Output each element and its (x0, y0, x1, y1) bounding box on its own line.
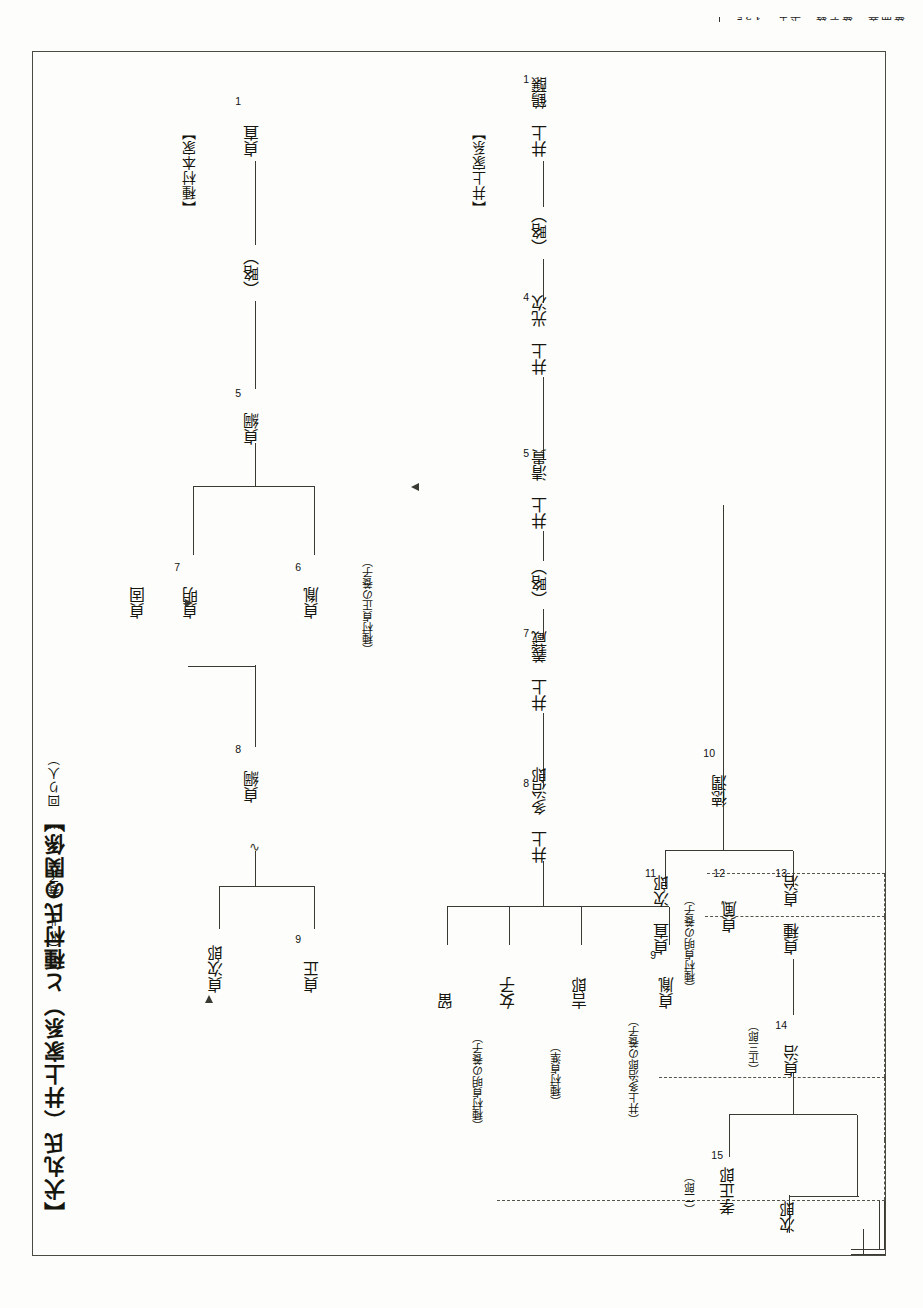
dashed-route-top-right-riser (884, 1078, 885, 1140)
dashed-route-mid-right (884, 874, 885, 916)
line-bar-child-b (509, 907, 510, 945)
person-inoue-ryaku-2: （略） (533, 559, 549, 607)
person-inoue-4: 井上 光次 (533, 295, 549, 375)
line-13-14 (793, 959, 794, 1015)
line-bar-to-sadaakira (193, 487, 194, 555)
line-takemura-8-up (255, 851, 256, 887)
person-inoue-7: 井上 義蔵 (533, 631, 549, 711)
line-bar-child-c (581, 907, 582, 945)
person-inoue-11: 貞直 次郎 (655, 875, 671, 955)
person-inoue-12: 貞風 (723, 901, 739, 933)
seq-takemura-9: 9 (295, 933, 301, 945)
seq-takemura-8: 8 (235, 743, 241, 755)
line-bar-to-jiro-note (729, 1115, 730, 1157)
line-bar-to-sadaji (219, 887, 220, 929)
line-inoue-10-bar (723, 805, 724, 851)
person-inoue-9b: 吉郎 (573, 977, 589, 1009)
group-label-takemura: 【種村本家】 (183, 125, 197, 215)
line-16-up (863, 1229, 864, 1255)
seq-takemura-1: 1 (235, 95, 241, 107)
seq-inoue-5: 5 (523, 447, 529, 459)
person-takemura-ryaku-1: （略） (245, 249, 261, 297)
annotation-jiro: （二郎） (685, 1171, 696, 1215)
person-inoue-13: 貞種 貞治 (785, 875, 801, 955)
seq-inoue-12: 12 (713, 867, 725, 879)
person-takemura-1: 貞直 (245, 125, 261, 157)
person-takemura-9: 貞正 (305, 961, 321, 993)
person-takemura-9b: 貞次郎 (209, 945, 225, 993)
dashed-route-low-arrow-icon (411, 483, 419, 491)
bar-15-16 (729, 1114, 857, 1115)
bar-takemura-5-children (193, 486, 315, 487)
seq-inoue-7: 7 (523, 627, 529, 639)
line-inoue-9-to-10 (723, 505, 724, 811)
annotation-takemura-sadaakira-yoshi-2: （種村貞明の養子） (685, 894, 696, 993)
line-inoue-8-bar (543, 861, 544, 907)
person-inoue-9c: 女子 (501, 977, 517, 1009)
person-takemura-7b: 貞固 (131, 587, 147, 619)
group-label-inoue: 【井上家系】 (473, 125, 487, 215)
line-bar-to-sadatane (314, 487, 315, 555)
seq-inoue-13: 13 (775, 867, 787, 879)
line-14-bar (793, 1073, 794, 1115)
dashed-route-mid-arrow-icon (185, 599, 193, 607)
person-inoue-1: 井上 鶴醸 (533, 77, 549, 157)
bar-inoue-10-children (665, 850, 793, 851)
line-bar-to-sadamasa (314, 887, 315, 929)
line-inoue-4-5 (543, 377, 544, 459)
line-bar-to-16 (857, 1115, 858, 1197)
bar-takemura-8-children (188, 666, 256, 667)
person-inoue-9d: 留 (439, 993, 455, 1009)
line-inoue-5-ryaku2 (543, 531, 544, 561)
bar-inoue-8-children (447, 906, 669, 907)
line-takemura-8-down (255, 665, 256, 747)
line-ryaku-takemura-5 (255, 301, 256, 389)
seq-inoue-8: 8 (523, 777, 529, 789)
line-inoue-1-ryaku (543, 161, 544, 207)
annotation-shozaburo: （正三郎） (749, 1020, 760, 1075)
adoption-link-sadaakira-up (879, 1201, 885, 1249)
seq-inoue-11: 11 (645, 867, 656, 879)
annotation-inoue-tajiro-yoshi: （井上多治郎の養子） (629, 1015, 640, 1125)
person-inoue-10: 徳潤 (713, 775, 729, 807)
person-takemura-6: 貞胤 (305, 587, 321, 619)
seq-takemura-5: 5 (235, 387, 241, 399)
dashed-route-low (707, 873, 885, 874)
person-inoue-ryaku-1: （略） (533, 207, 549, 255)
seq-inoue-10: 10 (703, 747, 715, 759)
seq-takemura-7: 7 (174, 561, 180, 573)
seq-takemura-6: 6 (295, 561, 301, 573)
person-inoue-15: 次郎 (781, 1201, 797, 1233)
person-inoue-5: 井上 清貴 (533, 449, 549, 529)
bar-takemura-9 (219, 886, 315, 887)
dashed-route-mid-riser (884, 917, 885, 1077)
annotation-takemura-sadamasa-yoshi: （種村貞正の養子） (363, 556, 374, 655)
seq-inoue-15: 15 (711, 1149, 723, 1161)
adoption-link-sadakata (851, 1249, 885, 1255)
annotation-takemura-sadaakira-yoshi: （種村貞明の養子） (473, 1032, 484, 1131)
line-takemura-5-bar (255, 443, 256, 487)
seq-inoue-1: 1 (523, 73, 529, 85)
seq-inoue-14: 14 (775, 1019, 787, 1031)
line-takemura-1-ryaku (255, 161, 256, 245)
person-inoue-jiro: 孝正郎 (721, 1167, 737, 1215)
annotation-takemura-sadajun: （種村貞準） (551, 1041, 562, 1107)
dashed-route-top-arrow-icon (205, 995, 213, 1003)
line-bar-child-a (447, 907, 448, 945)
figure-frame: 【犬丸氏（井上家系）と種村氏の関係】 （＝＝ 養子 …… 回り人） 【種村本家】… (32, 51, 886, 1256)
person-takemura-5: 貞綱 (245, 413, 261, 445)
person-inoue-9: 貞胤 (660, 977, 676, 1009)
bar-15-bracket (789, 1196, 859, 1197)
figure-legend: （＝＝ 養子 …… 回り人） (49, 751, 62, 955)
page-body: 【犬丸氏（井上家系）と種村氏の関係】 （＝＝ 養子 …… 回り人） 【種村本家】… (0, 0, 923, 1308)
dashed-route-mid (659, 1077, 885, 1078)
person-takemura-8: 貞綱 (245, 771, 261, 803)
dashed-route-top-down (884, 1140, 885, 1200)
person-inoue-8: 井上 多治郎 (533, 767, 549, 863)
seq-inoue-4: 4 (523, 291, 529, 303)
